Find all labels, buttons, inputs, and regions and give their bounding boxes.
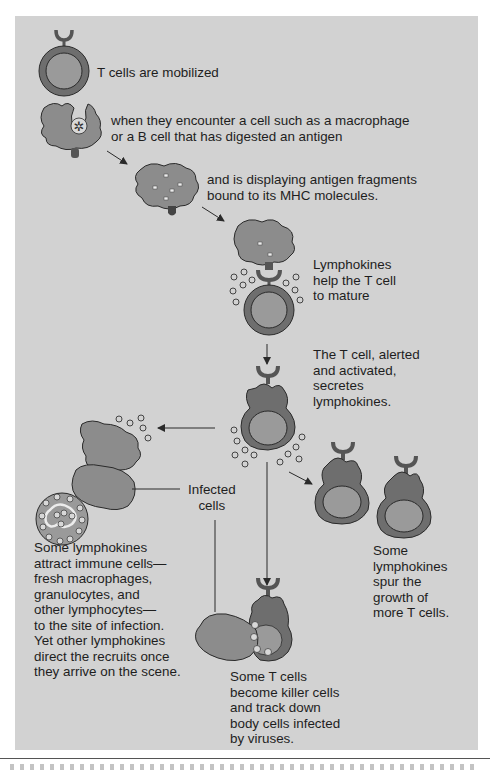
- arrow-to-new-t-cells: [289, 472, 312, 484]
- label-displaying: and is displaying antigen fragments boun…: [207, 172, 417, 203]
- macrophage-digesting-icon: ✲: [41, 103, 101, 158]
- cut-off-caption: [10, 764, 480, 770]
- new-t-cell-icon: [315, 442, 369, 524]
- new-t-cell-icon: [377, 456, 431, 538]
- macrophage-displaying-icon: [135, 163, 198, 215]
- label-infected-cells: Infected cells: [188, 482, 236, 513]
- footer-divider: [0, 758, 490, 759]
- resting-t-cell-icon: [39, 30, 89, 96]
- t-cell-binding-icon: [230, 220, 303, 335]
- label-encounter: when they encounter a cell such as a mac…: [111, 113, 410, 144]
- label-attract: Some lymphokines attract immune cells— f…: [34, 540, 181, 680]
- activated-t-cell-icon: [231, 366, 305, 467]
- killer-t-cell-icon: [196, 578, 293, 661]
- arrow-2: [202, 207, 224, 221]
- svg-text:✲: ✲: [74, 119, 85, 134]
- recruited-immune-cells-icon: [36, 415, 151, 545]
- label-help-mature: Lymphokines help the T cell to mature: [313, 257, 396, 304]
- arrow-1: [107, 151, 127, 164]
- label-alerted: The T cell, alerted and activated, secre…: [313, 347, 420, 409]
- label-killer-cells: Some T cells become killer cells and tra…: [230, 669, 340, 747]
- label-t-cells-mobilized: T cells are mobilized: [97, 65, 219, 81]
- label-spur-growth: Some lymphokines spur the growth of more…: [373, 543, 449, 621]
